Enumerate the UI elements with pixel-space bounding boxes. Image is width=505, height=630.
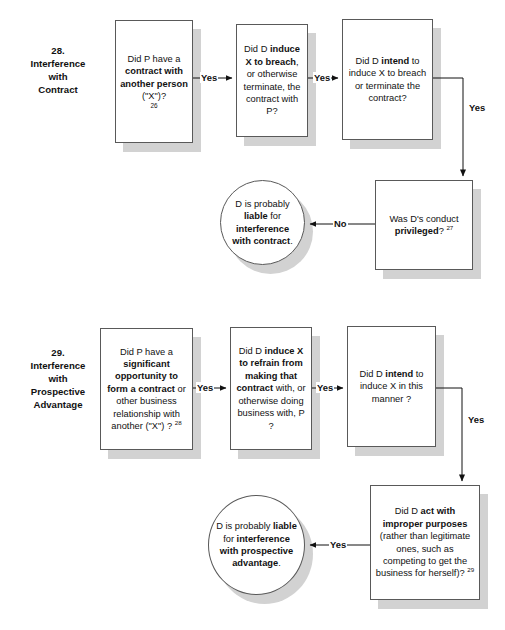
- outcome-text: D is probably liable for interference wi…: [221, 198, 304, 248]
- node-text: Did D induce X to refrain from making th…: [231, 345, 311, 432]
- node-did-p-have-contract[interactable]: Did P have a contract with another perso…: [115, 20, 193, 143]
- caption-28-line-2: Interference: [16, 57, 100, 70]
- connector-label-yes: Yes: [467, 414, 485, 425]
- section-caption-29: 29. Interference with Prospective Advant…: [14, 346, 102, 411]
- footnote-29: 29: [467, 566, 474, 573]
- caption-29-line-4: Prospective: [14, 385, 102, 398]
- caption-28-line-1: 28.: [16, 44, 100, 57]
- outcome-text: D is probably liable for interference wi…: [209, 520, 304, 570]
- section-caption-28: 28. Interference with Contract: [16, 44, 100, 96]
- node-text: Did P have a contract with another perso…: [116, 53, 192, 111]
- connector-label-yes: Yes: [200, 72, 218, 83]
- outcome-liable-interference-prospective[interactable]: D is probably liable for interference wi…: [208, 495, 305, 595]
- node-did-d-intend-breach[interactable]: Did D intend to induce X to breach or te…: [342, 19, 433, 140]
- node-text: Did D induce X to breach, or otherwise t…: [237, 43, 307, 117]
- node-did-d-induce-breach[interactable]: Did D induce X to breach, or otherwise t…: [236, 24, 308, 137]
- connector-label-yes: Yes: [196, 382, 214, 393]
- footnote-26: 26: [119, 102, 189, 110]
- caption-29-line-1: 29.: [14, 346, 102, 359]
- node-text: Was D's conduct privileged? 27: [376, 213, 472, 238]
- connector-label-yes: Yes: [329, 539, 347, 550]
- connector-label-no: No: [333, 218, 348, 229]
- node-was-conduct-privileged[interactable]: Was D's conduct privileged? 27: [375, 180, 473, 270]
- flowchart-page: 28. Interference with Contract Did P hav…: [0, 0, 505, 630]
- node-text: Did D intend to induce X in this manner …: [348, 368, 435, 405]
- node-did-d-act-improper[interactable]: Did D act with improper purposes (rather…: [370, 485, 480, 600]
- node-did-p-have-opportunity[interactable]: Did P have a significant opportunity to …: [100, 328, 193, 450]
- connector-label-yes: Yes: [468, 102, 486, 113]
- caption-28-line-3: with: [16, 70, 100, 83]
- caption-29-line-3: with: [14, 372, 102, 385]
- outcome-liable-interference-contract[interactable]: D is probably liable for interference wi…: [220, 180, 305, 265]
- caption-29-line-2: Interference: [14, 359, 102, 372]
- connector-label-yes: Yes: [313, 72, 331, 83]
- footnote-28: 28: [175, 419, 182, 426]
- caption-29-line-5: Advantage: [14, 398, 102, 411]
- caption-28-line-4: Contract: [16, 83, 100, 96]
- node-text: Did P have a significant opportunity to …: [101, 346, 192, 433]
- node-text: Did D intend to induce X to breach or te…: [343, 55, 432, 105]
- node-did-d-induce-refrain[interactable]: Did D induce X to refrain from making th…: [230, 327, 312, 450]
- node-did-d-intend-manner[interactable]: Did D intend to induce X in this manner …: [347, 326, 436, 447]
- connector-label-yes: Yes: [316, 382, 334, 393]
- footnote-27: 27: [446, 224, 453, 231]
- node-text: Did D act with improper purposes (rather…: [371, 505, 479, 579]
